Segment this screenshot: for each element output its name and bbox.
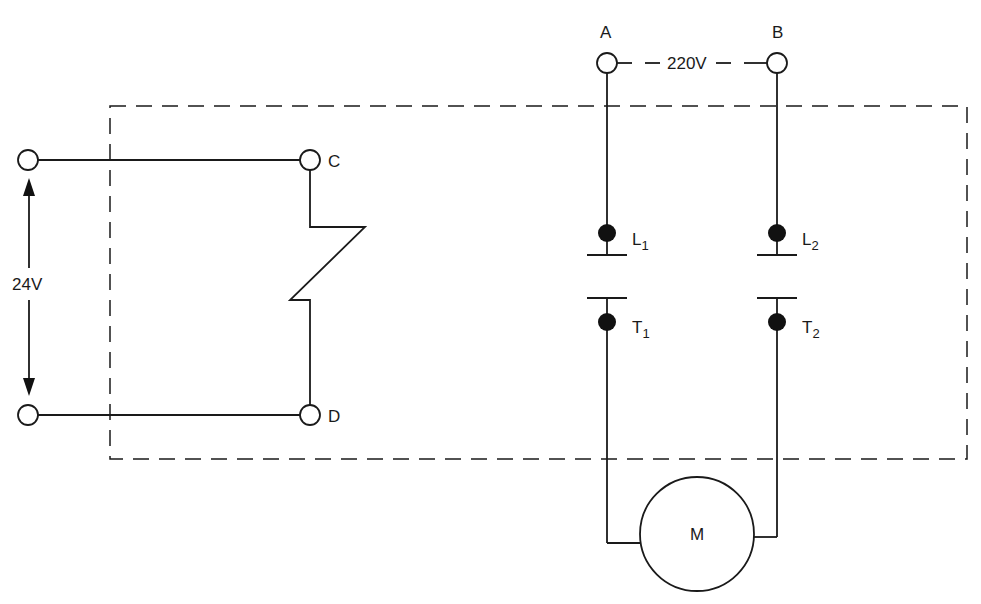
terminal-a	[597, 53, 617, 73]
terminal-t1	[598, 313, 616, 331]
terminal-c	[300, 150, 320, 170]
power-circuit: A B 220V L1 T1 L2 T2 M	[587, 23, 820, 591]
arrow-up-icon	[23, 178, 35, 196]
terminal-d-label: D	[328, 407, 340, 426]
terminal-d	[300, 405, 320, 425]
arrow-down-icon	[23, 378, 35, 396]
terminal-l1-label: L1	[632, 230, 649, 253]
control-circuit: C D 24V	[12, 150, 365, 426]
terminal-c-label: C	[328, 152, 340, 171]
terminal-l2-label: L2	[802, 230, 819, 253]
terminal-b-label: B	[772, 23, 783, 42]
coil-symbol	[290, 170, 365, 405]
supply-voltage-label: 220V	[667, 54, 707, 73]
supply-terminal-24v-top	[18, 150, 38, 170]
contactor-enclosure-boundary	[110, 106, 967, 459]
supply-terminal-24v-bottom	[18, 405, 38, 425]
terminal-t2	[768, 313, 786, 331]
terminal-l1	[598, 224, 616, 242]
terminal-l2	[768, 224, 786, 242]
contactor-circuit-diagram: C D 24V A B 220V L1 T1	[0, 0, 981, 604]
terminal-t1-label: T1	[632, 318, 650, 341]
control-voltage-label: 24V	[12, 275, 43, 294]
terminal-b	[767, 53, 787, 73]
terminal-t2-label: T2	[802, 318, 820, 341]
terminal-a-label: A	[600, 23, 612, 42]
motor-label: M	[690, 525, 704, 544]
